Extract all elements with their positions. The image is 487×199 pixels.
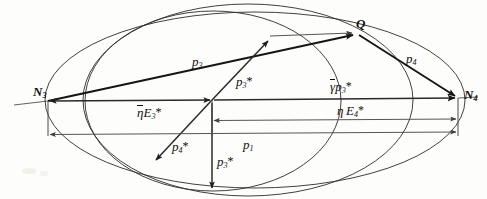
label-q: Q xyxy=(356,17,365,30)
diagram-canvas xyxy=(0,0,487,199)
vector-q-horizontal xyxy=(270,33,352,36)
scan-speck xyxy=(22,168,36,174)
horizontal-axis xyxy=(14,101,48,105)
vector-gamma-bar-p3-star xyxy=(214,98,455,100)
label-p4-star: p4* xyxy=(172,140,189,155)
geometry-diagram: N3 N4 Q p3 p4 p3* p4* p3* ηE3* γp3* η E4… xyxy=(0,0,487,199)
vector-eta-E4-star xyxy=(214,119,456,121)
label-eta-E4-star: η E4* xyxy=(337,104,364,119)
label-p3-star-lower: p3* xyxy=(217,155,234,170)
label-p4: p4 xyxy=(406,52,417,67)
vector-p3-star xyxy=(212,41,268,100)
vector-p1 xyxy=(50,132,456,135)
label-eta-bar-E3-star: ηE3* xyxy=(137,106,161,121)
gamma-bar-overline: γ xyxy=(330,80,335,93)
scan-speck xyxy=(40,171,48,176)
label-gamma-bar-p3-star: γp3* xyxy=(330,80,352,95)
label-p1: p1 xyxy=(243,138,254,153)
label-n4: N4 xyxy=(464,88,477,103)
label-p3-star: p3* xyxy=(236,75,253,90)
eta-bar-overline: η xyxy=(137,106,143,119)
vector-eta-bar-E3-star xyxy=(50,100,210,101)
label-n3: N3 xyxy=(33,85,46,100)
label-p3: p3 xyxy=(192,55,203,70)
